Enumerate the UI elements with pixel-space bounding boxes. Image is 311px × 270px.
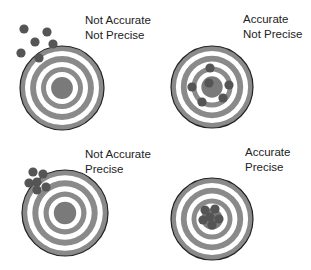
target-not-accurate-not-precise — [20, 46, 104, 130]
label-line-accuracy: Not Accurate — [85, 147, 151, 162]
label-line-accuracy: Accurate — [243, 12, 302, 27]
label-line-precision: Precise — [85, 162, 151, 177]
shot-dot — [32, 185, 41, 194]
target-accurate-not-precise — [171, 46, 253, 128]
shot-dot — [32, 177, 41, 186]
label-line-precision: Not Precise — [243, 27, 302, 42]
shot-dot — [218, 93, 227, 102]
shot-dot — [24, 178, 33, 187]
shot-dot — [205, 212, 214, 221]
shot-dot — [34, 53, 43, 62]
bullseye — [51, 77, 73, 99]
shot-dot — [38, 169, 47, 178]
bullseye — [54, 202, 76, 224]
shot-dot — [41, 182, 50, 191]
shot-dot — [187, 82, 196, 91]
shot-dot — [28, 167, 37, 176]
shot-dot — [204, 78, 213, 87]
shot-dot — [205, 63, 214, 72]
bullseye — [201, 76, 222, 97]
label-line-precision: Precise — [245, 160, 290, 175]
shot-dot — [42, 27, 51, 36]
label-not-accurate-precise: Not Accurate Precise — [85, 147, 151, 177]
label-not-accurate-not-precise: Not Accurate Not Precise — [85, 13, 151, 43]
shot-dot — [16, 48, 25, 57]
shot-dot — [48, 39, 57, 48]
shot-dot — [214, 214, 223, 223]
label-accurate-precise: Accurate Precise — [245, 145, 290, 175]
shot-dot — [207, 220, 216, 229]
shot-dot — [197, 97, 206, 106]
shot-dot — [19, 24, 28, 33]
label-line-accuracy: Not Accurate — [85, 13, 151, 28]
shot-dot — [30, 37, 39, 46]
label-line-precision: Not Precise — [85, 28, 151, 43]
shot-dot — [224, 80, 233, 89]
label-line-accuracy: Accurate — [245, 145, 290, 160]
shot-dot — [210, 204, 219, 213]
label-accurate-not-precise: Accurate Not Precise — [243, 12, 302, 42]
